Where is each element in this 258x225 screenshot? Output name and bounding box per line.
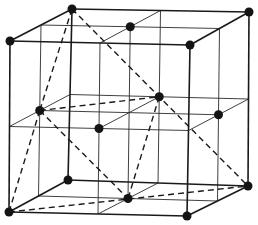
- cube-edge: [248, 12, 249, 186]
- atom-corner-back-bottom-right: [244, 182, 253, 191]
- cube-edge: [9, 41, 10, 212]
- atom-face-center-left: [35, 106, 44, 115]
- atom-corner-front-top-left: [6, 37, 15, 46]
- atom-face-center-top: [126, 22, 135, 31]
- atom-face-center-bottom: [124, 194, 133, 203]
- atom-corner-back-top-left: [68, 5, 77, 14]
- fcc-unit-cell-diagram: [0, 0, 258, 225]
- atom-corner-front-bottom-right: [183, 212, 192, 221]
- atom-corner-back-top-right: [245, 8, 254, 17]
- atom-face-center-right: [214, 110, 223, 119]
- atom-face-center-front: [95, 124, 104, 133]
- atom-corner-front-top-right: [186, 41, 195, 50]
- atom-face-center-back: [155, 92, 164, 101]
- atom-corner-back-bottom-left: [64, 176, 73, 185]
- atom-corner-front-bottom-left: [5, 208, 14, 217]
